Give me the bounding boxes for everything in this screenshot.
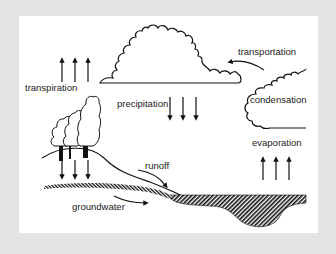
evaporation-arrows xyxy=(263,159,289,180)
precipitation-arrows xyxy=(170,97,196,118)
cloud-large xyxy=(100,25,241,83)
label-condensation: condensation xyxy=(250,95,307,105)
label-transportation: transportation xyxy=(238,47,296,57)
transportation-arrow xyxy=(230,61,264,70)
water-body xyxy=(168,195,306,227)
infiltration-arrows xyxy=(62,160,88,177)
label-transpiration: transpiration xyxy=(25,83,77,93)
runoff-arrow xyxy=(138,170,166,186)
label-runoff: runoff xyxy=(145,161,169,171)
hill xyxy=(42,148,300,197)
water-cycle-diagram xyxy=(0,0,336,254)
label-evaporation: evaporation xyxy=(252,138,302,148)
label-groundwater: groundwater xyxy=(72,202,125,212)
label-precipitation: precipitation xyxy=(117,99,168,109)
transpiration-arrows xyxy=(62,60,88,82)
groundwater-layer xyxy=(44,183,172,199)
